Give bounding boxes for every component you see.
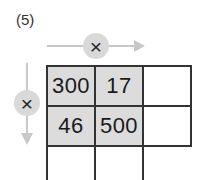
grid-line <box>46 105 192 107</box>
grid-cell-r2c2: 500 <box>95 106 143 146</box>
grid-line <box>190 65 192 147</box>
grid-cell-r3c3[interactable] <box>143 146 191 180</box>
grid-cell-r1c1: 300 <box>47 66 95 106</box>
grid-cell-r1c2: 17 <box>95 66 143 106</box>
grid-cell-r2c3[interactable] <box>143 106 191 146</box>
grid-line <box>46 65 48 180</box>
grid-line <box>46 145 192 147</box>
grid-cell-r2c1: 46 <box>47 106 95 146</box>
grid-cell-r3c2[interactable] <box>95 146 143 180</box>
down-arrow-icon <box>21 133 33 145</box>
grid-cell-r1c3[interactable] <box>143 66 191 106</box>
problem-number: (5) <box>16 11 34 28</box>
multiply-icon-horizontal: × <box>83 33 109 59</box>
multiply-icon-vertical: × <box>14 90 40 116</box>
grid-line <box>46 65 192 67</box>
grid-cell-r3c1[interactable] <box>47 146 95 180</box>
grid-line <box>142 65 144 180</box>
right-arrow-icon <box>134 40 145 52</box>
grid-line <box>94 65 96 180</box>
